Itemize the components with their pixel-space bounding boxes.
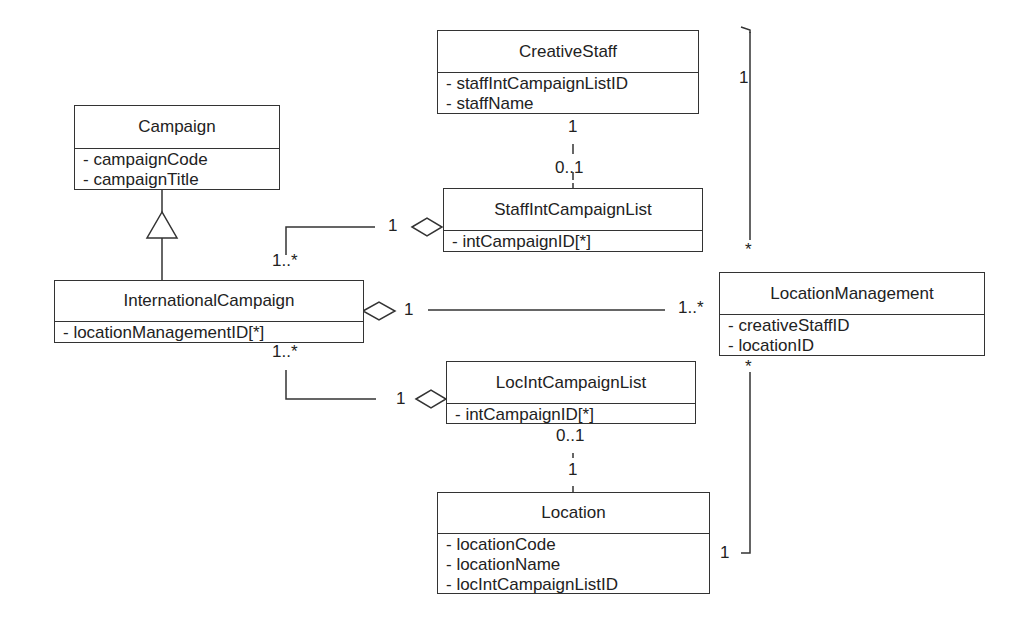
class-attributes: - intCampaignID[*]: [447, 404, 695, 425]
attribute: - locationName: [446, 555, 709, 575]
attribute: - intCampaignID[*]: [455, 405, 695, 425]
class-international-campaign[interactable]: InternationalCampaign - locationManageme…: [54, 280, 364, 343]
attribute: - intCampaignID[*]: [452, 232, 702, 252]
class-campaign[interactable]: Campaign - campaignCode - campaignTitle: [74, 105, 280, 190]
class-attributes: - locationManagementID[*]: [55, 322, 363, 343]
generalization-triangle-icon: [147, 212, 177, 238]
cs-lm-line: [741, 27, 750, 240]
multiplicity-label: 0..1: [556, 426, 584, 446]
class-name: LocIntCampaignList: [447, 362, 695, 404]
class-staff-int-campaign-list[interactable]: StaffIntCampaignList - intCampaignID[*]: [443, 188, 703, 252]
multiplicity-label: *: [745, 357, 752, 377]
multiplicity-label: 0..1: [555, 158, 583, 178]
multiplicity-label: 1..*: [272, 251, 298, 271]
attribute: - locationCode: [446, 535, 709, 555]
attribute: - staffIntCampaignListID: [446, 74, 698, 94]
aggregation-diamond-licl-icon: [416, 390, 446, 408]
multiplicity-label: 1..*: [678, 298, 704, 318]
multiplicity-label: 1: [568, 117, 577, 137]
multiplicity-label: 1: [720, 543, 729, 563]
class-attributes: - staffIntCampaignListID - staffName: [438, 73, 698, 114]
class-creative-staff[interactable]: CreativeStaff - staffIntCampaignListID -…: [437, 30, 699, 114]
multiplicity-label: 1: [396, 389, 405, 409]
attribute: - campaignCode: [83, 150, 279, 170]
multiplicity-label: *: [745, 240, 752, 260]
attribute: - creativeStaffID: [728, 316, 984, 336]
multiplicity-label: 1: [568, 460, 577, 480]
class-name: LocationManagement: [720, 273, 984, 315]
class-location-management[interactable]: LocationManagement - creativeStaffID - l…: [719, 272, 985, 356]
multiplicity-label: 1: [739, 68, 748, 88]
multiplicity-label: 1: [404, 300, 413, 320]
class-loc-int-campaign-list[interactable]: LocIntCampaignList - intCampaignID[*]: [446, 361, 696, 424]
sicl-ic-line: [286, 227, 375, 255]
class-attributes: - intCampaignID[*]: [444, 231, 702, 252]
aggregation-diamond-ic-icon: [363, 302, 395, 320]
class-name: StaffIntCampaignList: [444, 189, 702, 231]
class-attributes: - creativeStaffID - locationID: [720, 315, 984, 356]
loc-lm-line: [741, 372, 750, 553]
class-name: CreativeStaff: [438, 31, 698, 73]
attribute: - campaignTitle: [83, 170, 279, 190]
licl-ic-line: [286, 370, 376, 399]
aggregation-diamond-sicl-icon: [412, 218, 442, 236]
class-attributes: - locationCode - locationName - locIntCa…: [438, 534, 709, 595]
class-name: Location: [438, 493, 709, 534]
class-name: Campaign: [75, 106, 279, 149]
class-name: InternationalCampaign: [55, 281, 363, 322]
multiplicity-label: 1..*: [272, 342, 298, 362]
attribute: - staffName: [446, 94, 698, 114]
class-attributes: - campaignCode - campaignTitle: [75, 149, 279, 190]
class-location[interactable]: Location - locationCode - locationName -…: [437, 492, 710, 594]
multiplicity-label: 1: [388, 216, 397, 236]
attribute: - locationID: [728, 336, 984, 356]
attribute: - locationManagementID[*]: [63, 323, 363, 343]
attribute: - locIntCampaignListID: [446, 575, 709, 595]
